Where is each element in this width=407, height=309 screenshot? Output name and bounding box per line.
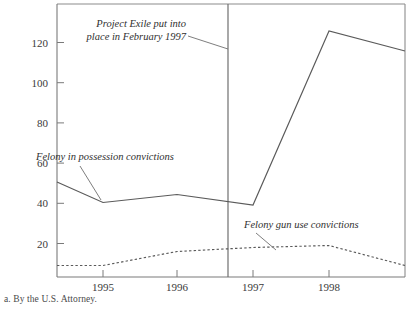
y-tick-label-120: 120: [32, 37, 49, 49]
series-felony-in-possession-label: Felony in possession convictions: [35, 151, 174, 162]
series-felony-in-possession-leader: [80, 166, 101, 200]
y-tick-label-40: 40: [37, 197, 49, 209]
x-tick-label-1998: 1998: [318, 281, 341, 293]
event-annotation-leader: [188, 36, 228, 49]
series-felony-gun-use-line: [57, 246, 405, 266]
y-tick-label-80: 80: [37, 117, 49, 129]
line-chart: 120 100 80 60 40 20 1995 1996 1997 1998 …: [0, 0, 407, 309]
x-tick-label-1997: 1997: [242, 281, 265, 293]
event-annotation-line-1: Project Exile put into: [95, 18, 186, 29]
chart-figure: 120 100 80 60 40 20 1995 1996 1997 1998 …: [0, 0, 407, 309]
figure-footnote: a. By the U.S. Attorney.: [4, 294, 97, 304]
series-felony-in-possession-line: [57, 31, 405, 205]
x-tick-label-1996: 1996: [166, 281, 189, 293]
series-felony-gun-use-label: Felony gun use convictions: [243, 219, 359, 230]
y-tick-label-100: 100: [32, 77, 49, 89]
event-annotation-line-2: place in February 1997: [86, 31, 187, 42]
y-tick-label-20: 20: [37, 238, 49, 250]
x-tick-label-1995: 1995: [92, 281, 115, 293]
